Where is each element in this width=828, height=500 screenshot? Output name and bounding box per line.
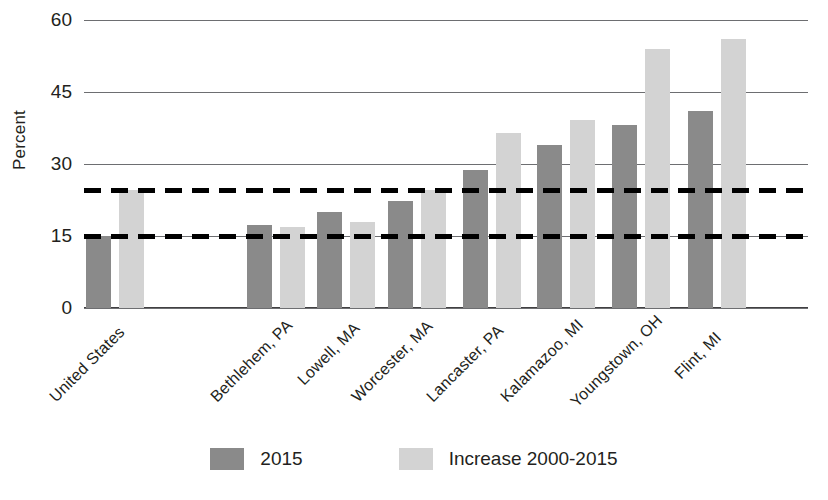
- x-axis-category-label: Bethlehem, PA: [207, 316, 296, 405]
- legend-label: Increase 2000-2015: [449, 448, 618, 470]
- legend-item[interactable]: 2015: [210, 448, 302, 470]
- legend-item[interactable]: Increase 2000-2015: [399, 448, 618, 470]
- bar-series-increase: [645, 49, 670, 308]
- y-axis-tick-label: 30: [28, 154, 72, 173]
- chart-legend: 2015Increase 2000-2015: [0, 448, 828, 470]
- bar-series-increase: [119, 190, 144, 308]
- x-axis-category-label: Lowell, MA: [294, 319, 363, 388]
- bar-series-increase: [570, 120, 595, 308]
- gridline: [84, 92, 808, 93]
- bar-series-2015: [317, 212, 342, 308]
- x-axis-category-label: United States: [46, 323, 128, 405]
- y-axis-tick-label: 45: [28, 82, 72, 101]
- bar-series-increase: [721, 39, 746, 308]
- y-axis-tick-label: 60: [28, 10, 72, 29]
- bar-series-2015: [86, 236, 111, 308]
- y-axis-tick-label: 15: [28, 226, 72, 245]
- bar-series-2015: [612, 125, 637, 308]
- bar-chart: Percent 015304560 United StatesBethlehem…: [0, 0, 828, 500]
- legend-label: 2015: [260, 448, 302, 470]
- bar-series-2015: [537, 145, 562, 308]
- bar-series-increase: [496, 133, 521, 308]
- bar-series-increase: [421, 190, 446, 308]
- us-2015-reference: [84, 234, 808, 239]
- us-increase-2000-2015-reference: [84, 188, 808, 193]
- x-axis-category-label: Lancaster, PA: [423, 321, 507, 405]
- legend-swatch-icon: [210, 448, 244, 470]
- legend-swatch-icon: [399, 448, 433, 470]
- y-axis-title: Percent: [10, 80, 30, 200]
- bar-series-increase: [280, 227, 305, 308]
- gridline: [84, 308, 808, 309]
- x-axis-category-label: Flint, MI: [671, 329, 725, 383]
- plot-area: [84, 20, 808, 308]
- y-axis-tick-label: 0: [28, 298, 72, 317]
- bar-series-2015: [688, 111, 713, 308]
- gridline: [84, 20, 808, 21]
- bar-series-2015: [388, 201, 413, 308]
